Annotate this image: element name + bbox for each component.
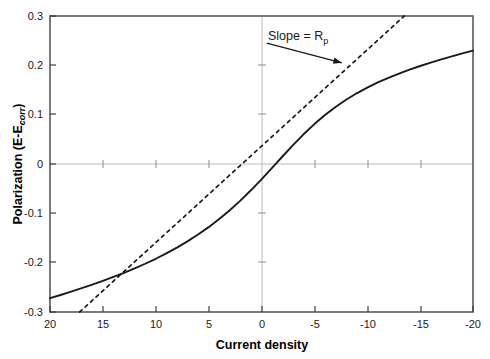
x-tick-label: -5 [310, 318, 320, 330]
y-tick-label: 0.1 [28, 108, 43, 120]
x-tick-label: 15 [97, 318, 109, 330]
y-tick-label: -0.2 [24, 256, 43, 268]
x-tick-label: -15 [413, 318, 429, 330]
y-axis-tick-labels: 0.3 0.2 0.1 0 -0.1 -0.2 -0.3 [24, 10, 43, 318]
y-tick-label: 0 [37, 158, 43, 170]
y-axis-title-main: Polarization (E-E [11, 125, 25, 224]
polarization-resistance-chart: 0.3 0.2 0.1 0 -0.1 -0.2 -0.3 20 15 10 5 … [0, 0, 490, 359]
y-axis-title-subscript: corr [17, 107, 27, 125]
y-tick-label: -0.3 [24, 306, 43, 318]
y-axis-title-tail: ) [11, 103, 25, 107]
chart-figure: 0.3 0.2 0.1 0 -0.1 -0.2 -0.3 20 15 10 5 … [0, 0, 490, 359]
y-tick-label: -0.1 [24, 207, 43, 219]
slope-annotation-main: Slope = R [268, 29, 323, 43]
x-axis-tick-labels: 20 15 10 5 0 -5 -10 -15 -20 [44, 318, 481, 330]
x-tick-label: -20 [465, 318, 481, 330]
x-tick-label: 10 [150, 318, 162, 330]
y-axis-title: Polarization (E-Ecorr) [11, 103, 27, 224]
y-tick-label: 0.3 [28, 10, 43, 22]
x-tick-label: 20 [44, 318, 56, 330]
slope-annotation-subscript: p [323, 36, 328, 46]
x-tick-label: 0 [259, 318, 265, 330]
x-tick-label: -10 [360, 318, 376, 330]
y-tick-label: 0.2 [28, 59, 43, 71]
x-tick-label: 5 [206, 318, 212, 330]
x-axis-title: Current density [216, 338, 308, 352]
